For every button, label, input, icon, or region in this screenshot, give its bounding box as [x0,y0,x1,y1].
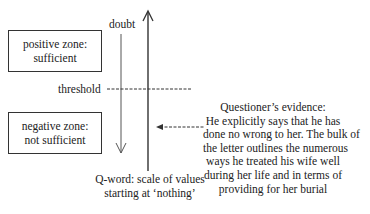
negative-zone-title: negative zone: [22,119,89,133]
scale-caption: Q-word: scale of values starting at ‘not… [90,172,210,200]
positive-zone-title: positive zone: [23,37,87,51]
evidence-arrowhead-icon [156,124,163,130]
evidence-heading: Questioner’s evidence: [203,101,343,115]
threshold-label: threshold [58,82,101,96]
scale-caption-line2: starting at ‘nothing’ [90,186,210,200]
negative-zone-box: negative zone: not sufficient [8,112,102,154]
evidence-line: done no wrong to her. The bulk of [203,128,343,142]
scale-caption-line1: Q-word: scale of values [90,172,210,186]
negative-zone-subtitle: not sufficient [25,133,86,147]
evidence-line: He explicitly says that he has [203,115,343,129]
evidence-line: providing for her burial [203,183,343,197]
positive-zone-subtitle: sufficient [33,51,76,65]
evidence-text: Questioner’s evidence: He explicitly say… [203,101,343,196]
evidence-line: the letter outlines the numerous [203,142,343,156]
evidence-line: ways he treated his wife well [203,155,343,169]
evidence-line: during her life and in terms of [203,169,343,183]
positive-zone-box: positive zone: sufficient [8,30,102,72]
doubt-label: doubt [109,17,135,31]
